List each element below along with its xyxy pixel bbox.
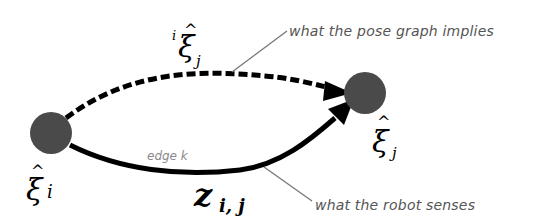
measured-annotation: what the robot senses [315,197,475,213]
implied-edge-dashed [66,73,338,118]
svg-text:^: ^ [31,162,44,181]
svg-text:i, j: i, j [219,195,245,216]
svg-text:i: i [172,28,176,43]
node-i-label: ξ ^ i [26,162,53,207]
edge-k-label: edge k [147,149,189,163]
implied-edge-math-label: i ξ ^ j [172,21,201,70]
svg-text:i: i [47,181,53,202]
measured-edge-solid [70,118,335,173]
measured-annotation-leader [264,167,312,201]
measured-edge-math-label: z i, j [193,176,245,216]
implied-annotation-leader [232,31,287,72]
svg-text:z: z [193,176,213,214]
implied-annotation: what the pose graph implies [289,23,494,39]
svg-text:^: ^ [377,113,390,132]
svg-text:^: ^ [184,21,197,40]
node-j-label: ξ ^ j [372,113,397,162]
svg-text:j: j [389,144,397,162]
pose-graph-diagram: what the pose graph implies what the rob… [0,0,548,222]
node-j [344,72,386,114]
node-i [30,112,72,154]
